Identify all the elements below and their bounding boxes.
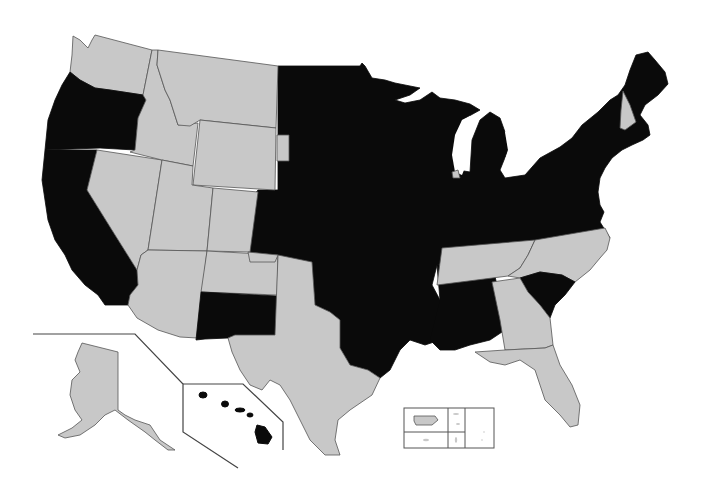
state-mt — [157, 50, 278, 128]
territories-inset — [404, 408, 494, 448]
territory-pr — [414, 416, 438, 425]
lake-huron — [505, 120, 535, 168]
state-hi — [199, 392, 272, 444]
state-wy — [193, 120, 276, 190]
state-az — [128, 250, 207, 338]
state-nm — [196, 292, 277, 340]
state-sd-west-block — [277, 135, 289, 161]
alaska-inset-frame — [33, 334, 238, 468]
us-choropleth-map — [0, 0, 719, 478]
state-ak — [58, 343, 175, 450]
state-fl — [475, 345, 580, 427]
state-co — [207, 188, 258, 252]
